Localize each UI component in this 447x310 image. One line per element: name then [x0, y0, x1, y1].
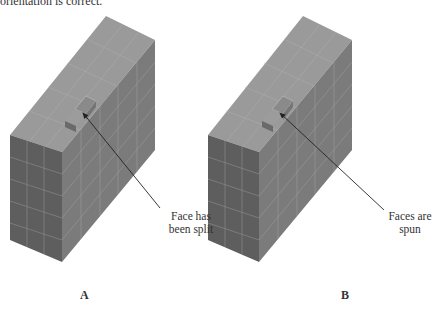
- callout-b-line2: spun: [380, 223, 440, 236]
- panel-label-b: B: [341, 288, 349, 303]
- callout-a-line1: Face has: [158, 210, 224, 223]
- figure-canvas: [0, 0, 447, 310]
- panel-label-a: A: [80, 288, 89, 303]
- block-a: [10, 16, 160, 262]
- block-b: [208, 16, 384, 262]
- callout-a-line2: been split: [158, 223, 224, 236]
- block-b-front-face: [208, 135, 259, 262]
- block-a-front-face: [10, 135, 62, 262]
- callout-b-line1: Faces are: [380, 210, 440, 223]
- callout-a: Face has been split: [158, 210, 224, 236]
- callout-b: Faces are spun: [380, 210, 440, 236]
